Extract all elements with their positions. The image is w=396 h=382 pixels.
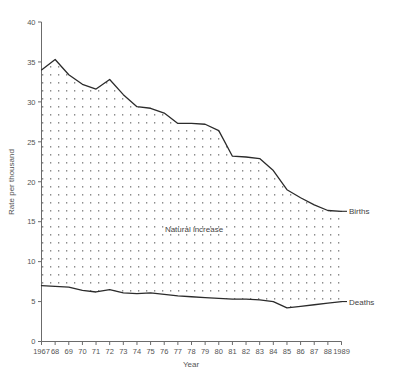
births-series-label: Births <box>349 207 369 216</box>
x-tick-label: 83 <box>256 347 264 356</box>
x-tick-label: 1967 <box>33 347 50 356</box>
x-tick-label: 85 <box>283 347 291 356</box>
y-tick-label: 0 <box>31 337 35 346</box>
x-tick-label: 70 <box>78 347 86 356</box>
x-tick-label: 84 <box>269 347 277 356</box>
x-tick-label: 79 <box>201 347 209 356</box>
x-tick-label: 81 <box>228 347 236 356</box>
y-tick-label: 25 <box>27 138 35 147</box>
x-tick-label: 68 <box>51 347 59 356</box>
y-axis-title: Rate per thousand <box>7 149 16 215</box>
x-axis-title: Year <box>183 360 200 369</box>
deaths-series-label: Deaths <box>349 298 374 307</box>
y-tick-label: 20 <box>27 178 35 187</box>
x-tick-label: 86 <box>296 347 304 356</box>
natural-increase-label: Natural increase <box>165 225 224 234</box>
birth-death-rate-area-chart: 0510152025303540 19676869707172737475767… <box>0 0 396 382</box>
x-tick-label: 82 <box>242 347 250 356</box>
x-tick-label: 88 <box>324 347 332 356</box>
x-tick-label: 71 <box>92 347 100 356</box>
y-tick-label: 15 <box>27 217 35 226</box>
x-tick-label: 73 <box>119 347 127 356</box>
x-tick-label: 87 <box>310 347 318 356</box>
y-tick-label: 30 <box>27 98 35 107</box>
x-tick-label: 75 <box>146 347 154 356</box>
y-tick-label: 10 <box>27 257 35 266</box>
chart-container: 0510152025303540 19676869707172737475767… <box>0 0 396 382</box>
natural-increase-area <box>42 60 342 308</box>
x-tick-label: 69 <box>65 347 73 356</box>
y-tick-label: 35 <box>27 58 35 67</box>
x-tick-label: 78 <box>187 347 195 356</box>
y-tick-label: 5 <box>31 297 35 306</box>
y-axis-ticks: 0510152025303540 <box>27 18 41 347</box>
x-axis-ticks: 1967686970717273747576777879808182838485… <box>33 342 350 356</box>
x-tick-label: 74 <box>133 347 141 356</box>
x-tick-label: 80 <box>215 347 223 356</box>
x-tick-label: 77 <box>174 347 182 356</box>
x-tick-label: 1989 <box>333 347 350 356</box>
x-tick-label: 72 <box>106 347 114 356</box>
x-tick-label: 76 <box>160 347 168 356</box>
y-tick-label: 40 <box>27 18 35 27</box>
